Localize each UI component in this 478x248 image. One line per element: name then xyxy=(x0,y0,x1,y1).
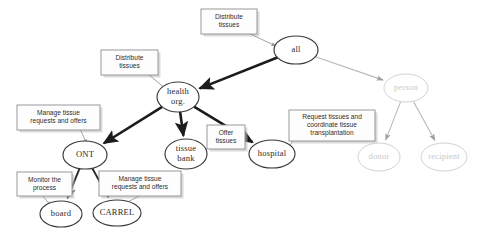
edge-person-to-recipient xyxy=(413,101,435,140)
callout-pointer xyxy=(248,33,276,46)
node-tissue_bank[interactable]: tissuebank xyxy=(165,139,207,169)
callout-text-line: requests and offers xyxy=(30,117,87,125)
callout-text-line: tissues xyxy=(119,62,140,69)
diagram-canvas: DistributetissuesDistributetissuesManage… xyxy=(0,0,478,248)
node-all[interactable]: all xyxy=(274,36,318,64)
node-hospital[interactable]: hospital xyxy=(249,140,295,168)
callout-text-line: transplantation xyxy=(310,129,354,137)
node-carrel[interactable]: CARREL xyxy=(93,200,141,226)
node-label: CARREL xyxy=(100,207,135,217)
callout-text-line: Offer xyxy=(219,129,234,136)
edge-health_org-to-tissue_bank xyxy=(180,112,183,136)
node-label: person xyxy=(394,82,418,92)
edge-all-to-health_org xyxy=(200,57,278,88)
edge-health_org-to-ont xyxy=(104,107,162,143)
node-label: hospital xyxy=(258,148,287,158)
callout-text-line: coordinate tissue xyxy=(307,121,357,128)
callout-text-line: Distribute xyxy=(116,54,144,61)
edge-person-to-donor xyxy=(386,102,401,141)
edge-all-to-person xyxy=(315,57,383,80)
callout-text-line: process xyxy=(33,184,57,192)
node-label: ONT xyxy=(76,149,95,159)
node-label: health xyxy=(167,86,190,96)
callout-ont: Manage tissuerequests and offers xyxy=(17,105,103,144)
node-label: bank xyxy=(177,153,195,163)
callout-text-line: Manage tissue xyxy=(37,109,80,117)
node-label: all xyxy=(291,44,301,54)
node-recipient[interactable]: recipient xyxy=(421,143,467,171)
node-label: recipient xyxy=(428,151,460,161)
callout-text-line: Monitor the xyxy=(28,176,61,183)
node-person[interactable]: person xyxy=(384,74,428,102)
callout-text-line: tissues xyxy=(216,137,237,144)
node-label: board xyxy=(51,208,72,218)
callout-all: Distributetissues xyxy=(201,9,276,46)
callout-health-org: Distributetissues xyxy=(101,50,167,90)
node-label: tissue xyxy=(176,143,197,153)
node-label: donor xyxy=(369,151,390,161)
node-health_org[interactable]: healthorg. xyxy=(157,82,199,112)
node-board[interactable]: board xyxy=(40,201,82,227)
callout-text-line: Request tissues and xyxy=(302,113,362,121)
node-donor[interactable]: donor xyxy=(358,143,400,171)
callout-tissue-bank: Offertissues xyxy=(201,125,248,155)
graph-svg: DistributetissuesDistributetissuesManage… xyxy=(0,0,478,248)
node-label: org. xyxy=(171,96,185,106)
callout-text-line: Distribute xyxy=(215,13,243,20)
callout-text-line: tissues xyxy=(219,21,240,28)
node-ont[interactable]: ONT xyxy=(63,141,107,169)
callout-text-line: requests and offers xyxy=(112,183,169,191)
callout-text-line: Manage tissue xyxy=(119,175,162,183)
